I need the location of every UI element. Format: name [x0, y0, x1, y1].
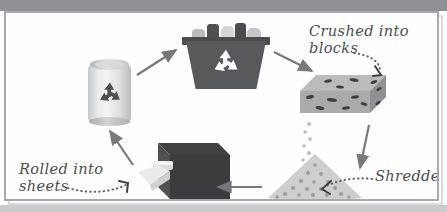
top-band	[0, 0, 447, 11]
diagram-canvas: Crushed into blocks Shredded Rolled into…	[6, 13, 437, 199]
diagram-page: Crushed into blocks Shredded Rolled into…	[0, 0, 447, 212]
label-crushed-into-blocks: Crushed into blocks	[309, 23, 409, 57]
label-shredded: Shredded	[375, 168, 437, 185]
arrow-block-to-pile	[360, 125, 369, 168]
bottom-band	[0, 205, 447, 212]
leader-shredded-arrowhead	[322, 181, 331, 194]
arrow-machine-to-can	[110, 131, 133, 165]
arrow-can-to-bin	[137, 50, 176, 75]
leader-shredded	[324, 178, 372, 187]
label-rolled-into-sheets: Rolled into sheets	[19, 161, 103, 195]
arrow-bin-to-block	[274, 52, 312, 71]
